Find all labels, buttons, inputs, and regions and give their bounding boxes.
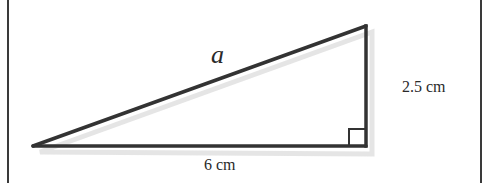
- base-label: 6 cm: [204, 156, 236, 174]
- diagram-canvas: a 2.5 cm 6 cm: [0, 0, 484, 183]
- triangle-shadow: [40, 32, 372, 154]
- right-angle-marker: [349, 129, 366, 146]
- triangle: [33, 26, 366, 146]
- hypotenuse-label: a: [211, 40, 224, 70]
- vertical-leg-label: 2.5 cm: [402, 78, 446, 96]
- hypotenuse-side: [33, 26, 366, 146]
